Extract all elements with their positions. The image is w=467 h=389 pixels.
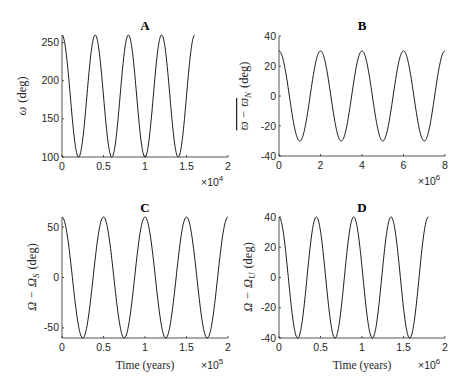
y-tick-label: 0 <box>270 271 276 283</box>
x-tick-label: 1.5 <box>179 341 194 353</box>
panel-b-axes: 02468-40-2002040 <box>261 30 448 172</box>
x-tick-label: 0 <box>276 341 282 353</box>
x-tick-label: 1.5 <box>179 160 194 172</box>
figure: A 00.511.52100150200250 ω(deg) ×104 B 02… <box>0 0 467 389</box>
x-tick-label: 0 <box>276 159 282 171</box>
x-tick-label: 0 <box>59 341 65 353</box>
y-tick-label: -20 <box>261 301 276 313</box>
x-tick-label: 1.5 <box>396 341 411 353</box>
panel-a: A 00.511.52100150200250 ω(deg) ×104 <box>15 18 231 188</box>
x-tick-label: 0.5 <box>96 341 111 353</box>
x-tick-label: 0.5 <box>96 160 111 172</box>
panel-d-curve <box>279 217 428 338</box>
panel-a-x-multiplier: ×104 <box>201 174 224 188</box>
panel-b-x-multiplier: ×106 <box>418 173 441 187</box>
y-tick-label: 200 <box>41 74 59 86</box>
x-tick-label: 2 <box>442 341 448 353</box>
y-tick-label: 40 <box>264 211 276 223</box>
panel-c-title: C <box>140 200 149 215</box>
y-tick-label: -40 <box>261 332 276 344</box>
panel-a-axes: 00.511.52100150200250 <box>41 35 231 172</box>
y-tick-label: 20 <box>264 241 276 253</box>
y-tick-label: -50 <box>44 321 59 333</box>
y-tick-label: 250 <box>41 36 59 48</box>
y-tick-label: 100 <box>41 151 59 163</box>
panel-d-title: D <box>357 200 366 215</box>
y-tick-label: 0 <box>270 90 276 102</box>
y-tick-label: 150 <box>41 112 59 124</box>
y-tick-label: -40 <box>261 150 276 162</box>
panel-a-curve <box>62 35 195 157</box>
panel-c-axes: 00.511.52-50050 <box>44 217 231 353</box>
panel-d: D 00.511.52-40-2002040 Ω − ΩU(deg) Time … <box>241 200 448 372</box>
x-tick-label: 8 <box>442 159 448 171</box>
panel-c: C 00.511.52-50050 Ω − ΩS(deg) Time (year… <box>25 200 231 372</box>
x-tick-label: 0.5 <box>313 341 328 353</box>
panel-c-ylabel: Ω − ΩS(deg) <box>25 243 41 311</box>
panel-b-title: B <box>358 18 367 33</box>
panel-c-xlabel: Time (years) <box>116 359 175 372</box>
panel-c-curve <box>62 217 228 338</box>
x-tick-label: 1 <box>359 341 365 353</box>
panel-b-ylabel: ϖ − ϖN(deg) <box>237 62 253 131</box>
panel-d-x-multiplier: ×106 <box>418 357 441 371</box>
panel-b: B 02468-40-2002040 ϖ − ϖN(deg) ×106 <box>237 18 448 187</box>
x-tick-label: 1 <box>142 341 148 353</box>
y-tick-label: 40 <box>264 30 276 42</box>
y-tick-label: 20 <box>264 60 276 72</box>
panel-d-axes: 00.511.52-40-2002040 <box>261 211 448 354</box>
x-tick-label: 2 <box>225 341 231 353</box>
panel-b-curve <box>279 51 445 141</box>
y-tick-label: 0 <box>53 271 59 283</box>
x-tick-label: 2 <box>318 159 324 171</box>
x-tick-label: 1 <box>142 160 148 172</box>
x-tick-label: 0 <box>59 160 65 172</box>
x-tick-label: 6 <box>401 159 407 171</box>
x-tick-label: 4 <box>359 159 365 171</box>
panel-a-ylabel: ω(deg) <box>15 76 29 115</box>
panel-a-title: A <box>140 18 150 33</box>
panel-d-ylabel: Ω − ΩU(deg) <box>241 242 257 312</box>
panel-d-xlabel: Time (years) <box>333 359 392 372</box>
y-tick-label: -20 <box>261 120 276 132</box>
y-tick-label: 50 <box>47 221 59 233</box>
x-tick-label: 2 <box>225 160 231 172</box>
panel-c-x-multiplier: ×105 <box>201 357 224 371</box>
